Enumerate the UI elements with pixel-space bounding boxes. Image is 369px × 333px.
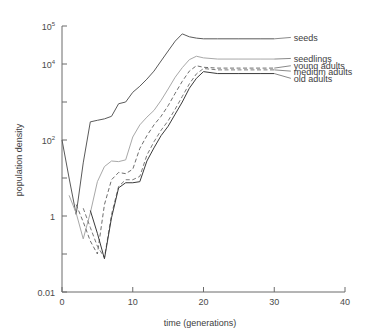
x-axis-tick-label: 10 [128,297,138,307]
chart-container: 0.011102104105010203040 seedsseedlingsyo… [0,0,369,333]
series-leader-old-adults [274,74,291,79]
series-line-seedlings [69,56,274,239]
series-leader-seedlings [274,58,291,59]
series-leader-seeds [274,37,291,38]
y-axis-tick-label: 105 [42,21,56,32]
x-axis-tick-label: 0 [59,297,64,307]
y-axis-tick-label: 102 [42,135,56,146]
x-axis-tick-label: 30 [269,297,279,307]
population-density-line-chart: 0.011102104105010203040 seedsseedlingsyo… [0,0,369,333]
series-line-seeds [62,34,274,215]
series-leader-medium-adults [274,70,291,71]
series-line-old-adults [90,72,274,259]
x-axis-title: time (generations) [164,318,237,328]
y-axis-tick-label: 0.01 [37,288,55,298]
y-axis-tick-label: 104 [42,59,56,70]
x-axis-tick-label: 40 [340,297,350,307]
x-axis-tick-label: 20 [198,297,208,307]
y-axis-tick-label: 1 [50,212,55,222]
series-line-medium-adults [83,69,274,258]
series-group [62,34,274,259]
series-line-young-adults [76,66,274,254]
series-labels-group: seedsseedlingsyoung adultsmedium adultso… [274,33,353,84]
series-leader-young-adults [274,66,291,68]
series-label-seeds: seeds [294,33,319,43]
y-axis-title: population density [14,123,24,196]
series-label-old-adults: old adults [294,74,333,84]
